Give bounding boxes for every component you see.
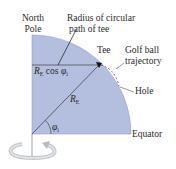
trajectory-leader-line [116, 63, 124, 69]
radius-label-line1: Radius of circular [67, 13, 135, 24]
golf-ball-label-line1: Golf ball [125, 45, 161, 56]
north-pole-label: North Pole [16, 13, 50, 34]
phi-subscript: i [57, 127, 59, 133]
re-cos-phi-label: RE cos φi [34, 66, 68, 80]
golf-ball-label-line2: trajectory [125, 56, 161, 67]
golf-ball-trajectory-label: Golf ball trajectory [125, 45, 161, 66]
re-label: RE [70, 94, 79, 108]
north-pole-label-line1: North [16, 13, 50, 24]
phi-angle-label: φi [52, 122, 59, 136]
rotation-arrow-icon [11, 141, 55, 158]
north-pole-label-line2: Pole [16, 24, 50, 35]
cos-text: cos [43, 66, 60, 76]
radius-circular-path-label: Radius of circular path of tee [67, 13, 135, 34]
hole-leader-line [120, 87, 134, 92]
hole-label: Hole [135, 86, 153, 97]
radius-label-line2: path of tee [67, 24, 135, 35]
re-subscript: E [76, 99, 80, 105]
tee-label: Tee [97, 45, 111, 56]
phi-subscript: i [66, 71, 68, 77]
equator-label: Equator [132, 129, 162, 140]
